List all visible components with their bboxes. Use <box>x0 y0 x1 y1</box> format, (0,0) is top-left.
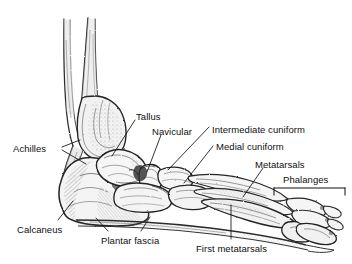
label-calcaneus: Calcaneus <box>17 224 62 235</box>
label-metatarsals: Metatarsals <box>255 159 305 170</box>
label-phalanges: Phalanges <box>283 174 328 185</box>
label-achilses: Achilles <box>13 143 46 154</box>
label-medial-cuniform: Medial cuniform <box>216 141 284 152</box>
label-first-metatarsals: First metatarsals <box>196 243 267 254</box>
label-tallus: Tallus <box>136 111 161 122</box>
label-plantar-fascia: Plantar fascia <box>101 235 159 246</box>
label-navicular: Navicular <box>152 126 192 137</box>
foot-anatomy-diagram: Achilles Tallus Navicular Intermediate c… <box>0 0 352 264</box>
label-intermediate-cuniform: Intermediate cuniform <box>212 124 305 135</box>
